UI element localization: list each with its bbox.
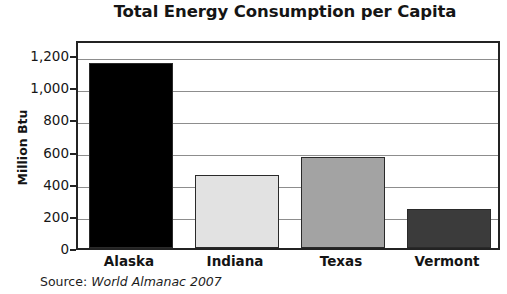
- y-tick-label: 1,000: [0, 82, 69, 96]
- category-label-indiana: Indiana: [182, 253, 288, 269]
- y-tick-label: 600: [0, 147, 69, 161]
- bars-layer: [78, 43, 498, 248]
- bar-chart-figure: Total Energy Consumption per Capita Mill…: [0, 0, 507, 294]
- category-label-vermont: Vermont: [394, 253, 500, 269]
- source-label: Source:: [40, 274, 87, 289]
- y-tick-label: 200: [0, 211, 69, 225]
- category-label-alaska: Alaska: [76, 253, 182, 269]
- y-tick-label: 400: [0, 179, 69, 193]
- source-reference: World Almanac 2007: [91, 274, 222, 289]
- y-tick-label: 800: [0, 114, 69, 128]
- category-label-texas: Texas: [288, 253, 394, 269]
- y-tick-label: 0: [0, 243, 69, 257]
- chart-title: Total Energy Consumption per Capita: [70, 2, 500, 21]
- source-note: Source: World Almanac 2007: [40, 274, 222, 289]
- y-tick-label: 1,200: [0, 50, 69, 64]
- bar-indiana: [195, 175, 280, 248]
- bar-texas: [301, 157, 386, 248]
- plot-area: [76, 41, 500, 250]
- bar-vermont: [407, 209, 492, 248]
- bar-alaska: [89, 63, 174, 248]
